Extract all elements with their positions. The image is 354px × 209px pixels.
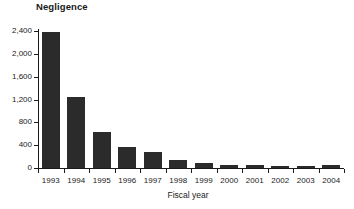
x-axis-tick-label: 2000 <box>217 176 243 185</box>
y-tick-label-wrap: 2,400 <box>0 27 32 35</box>
chart-figure: Negligence 04008001,2001,6002,0002,400 1… <box>0 0 354 209</box>
bar-1997 <box>144 152 162 168</box>
bar-1995 <box>93 132 111 168</box>
x-tick-2002 <box>293 169 294 173</box>
bar-2000 <box>220 165 238 168</box>
bar-2001 <box>246 165 264 168</box>
y-axis-tick-label: 1,600 <box>2 73 32 81</box>
x-tick-1993 <box>64 169 65 173</box>
x-tick-origin <box>38 169 39 173</box>
x-axis-tick-label: 1996 <box>115 176 141 185</box>
x-tick-1996 <box>140 169 141 173</box>
x-axis-tick-label: 1999 <box>191 176 217 185</box>
x-tick-2000 <box>242 169 243 173</box>
y-tick-2,400 <box>34 31 38 32</box>
x-axis-tick-label: 2002 <box>268 176 294 185</box>
x-tick-1998 <box>191 169 192 173</box>
y-tick-400 <box>34 145 38 146</box>
y-axis-tick-label: 2,400 <box>2 27 32 35</box>
y-tick-1,600 <box>34 77 38 78</box>
y-tick-2,000 <box>34 54 38 55</box>
chart-title: Negligence <box>36 1 88 12</box>
y-tick-label-wrap: 2,000 <box>0 50 32 58</box>
bar-1993 <box>42 32 60 168</box>
bar-2004 <box>322 165 340 168</box>
x-axis-tick-label: 1994 <box>64 176 90 185</box>
bar-1994 <box>67 97 85 168</box>
y-tick-label-wrap: 400 <box>0 141 32 149</box>
x-axis-title-text: Fiscal year <box>167 190 208 200</box>
bar-1998 <box>169 160 187 168</box>
y-tick-1,200 <box>34 100 38 101</box>
y-tick-800 <box>34 122 38 123</box>
y-axis-tick-label: 800 <box>2 118 32 126</box>
y-axis-tick-label: 1,200 <box>2 96 32 104</box>
bar-1999 <box>195 163 213 168</box>
x-tick-1995 <box>115 169 116 173</box>
y-tick-label-wrap: 0 <box>0 164 32 172</box>
x-tick-2001 <box>268 169 269 173</box>
x-axis-tick-label: 1995 <box>89 176 115 185</box>
x-axis-tick-label: 2003 <box>293 176 319 185</box>
y-axis-tick-label: 400 <box>2 141 32 149</box>
bar-2003 <box>297 166 315 168</box>
x-axis-tick-label: 1998 <box>166 176 192 185</box>
x-tick-1994 <box>89 169 90 173</box>
x-tick-2003 <box>319 169 320 173</box>
y-axis-line <box>38 29 39 169</box>
x-axis-tick-label: 2004 <box>319 176 345 185</box>
y-axis-tick-label: 0 <box>2 164 32 172</box>
x-axis-title: Fiscal year <box>0 190 354 200</box>
x-tick-2004 <box>344 169 345 173</box>
bar-2002 <box>271 166 289 168</box>
y-tick-label-wrap: 1,600 <box>0 73 32 81</box>
x-axis-tick-label: 2001 <box>242 176 268 185</box>
y-tick-label-wrap: 1,200 <box>0 96 32 104</box>
x-axis-tick-label: 1997 <box>140 176 166 185</box>
x-axis-tick-label: 1993 <box>38 176 64 185</box>
bar-1996 <box>118 147 136 168</box>
x-tick-1999 <box>217 169 218 173</box>
y-tick-label-wrap: 800 <box>0 118 32 126</box>
x-tick-1997 <box>166 169 167 173</box>
y-axis-tick-label: 2,000 <box>2 50 32 58</box>
